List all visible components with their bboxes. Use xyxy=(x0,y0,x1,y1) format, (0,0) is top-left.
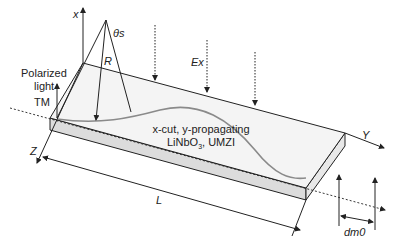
crystal-label-line2: LiNbO3, UMZI xyxy=(138,137,264,150)
dm0-dimension-line xyxy=(341,216,373,222)
input-label-line1: Polarized xyxy=(21,68,67,79)
crystal-label: x-cut, y-propagating LiNbO3, UMZI xyxy=(138,124,264,150)
length-extension-line xyxy=(292,200,306,236)
crystal-label-line1: x-cut, y-propagating xyxy=(138,124,264,135)
z-axis-label: Z xyxy=(30,146,37,157)
theta-label: θs xyxy=(113,28,124,39)
offset-label: dm0 xyxy=(344,227,365,238)
y-axis-label: Y xyxy=(362,130,369,141)
input-label-line2: light xyxy=(34,81,54,92)
x-axis-label: x xyxy=(73,9,79,20)
field-label: Ex xyxy=(191,57,204,68)
length-label: L xyxy=(156,195,162,206)
mode-label: TM xyxy=(34,97,50,108)
radius-label: R xyxy=(104,56,112,67)
